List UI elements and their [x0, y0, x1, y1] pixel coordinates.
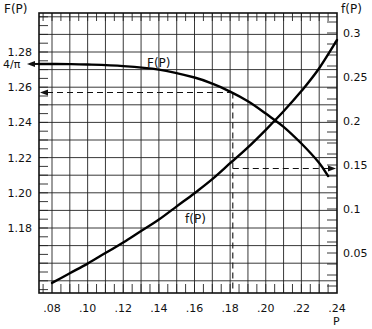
y-right-tick-label: 0.05 — [343, 247, 368, 260]
y-left-tick-label: 1.24 — [8, 116, 33, 129]
arrow-left-icon — [27, 61, 35, 67]
x-tick-label: .20 — [257, 302, 275, 315]
arrow-left-icon — [40, 89, 48, 95]
y-right-tick-label: 0.1 — [343, 203, 361, 216]
x-tick-label: .10 — [79, 302, 97, 315]
x-tick-label: .12 — [115, 302, 133, 315]
labels: .08.10.12.14.16.18.20.22.241.281.261.241… — [3, 27, 368, 315]
arrow-right-icon — [328, 166, 336, 172]
y-left-tick-label: 1.22 — [8, 152, 33, 165]
curve-F-of-P — [39, 64, 328, 176]
x-tick-label: .24 — [328, 302, 346, 315]
series — [39, 40, 337, 283]
x-tick-label: .08 — [43, 302, 61, 315]
y-left-tick-label: 1.20 — [8, 187, 33, 200]
plot-frame — [39, 13, 337, 293]
y-left-axis-label: F(P) — [4, 2, 28, 16]
x-tick-label: .16 — [186, 302, 204, 315]
annotations — [27, 61, 336, 293]
y-right-tick-label: 0.3 — [343, 27, 361, 40]
y-left-tick-label: 1.18 — [8, 222, 33, 235]
four-over-pi-label: 4/π — [3, 58, 21, 71]
y-right-tick-label: 0.2 — [343, 115, 361, 128]
curve-label-f: f(P) — [185, 212, 206, 226]
chart: .08.10.12.14.16.18.20.22.241.281.261.241… — [0, 0, 372, 329]
x-tick-label: .14 — [150, 302, 168, 315]
minor-ticks — [39, 13, 337, 293]
curve-label-F: F(P) — [147, 56, 171, 70]
y-right-tick-label: 0.15 — [343, 159, 368, 172]
x-tick-label: .22 — [293, 302, 311, 315]
y-right-axis-label: f(P) — [341, 2, 362, 16]
grid-lines — [39, 13, 337, 293]
y-right-tick-label: 0.25 — [343, 71, 368, 84]
x-axis-label: P — [333, 315, 340, 328]
x-tick-label: .18 — [221, 302, 239, 315]
y-left-tick-label: 1.26 — [8, 81, 33, 94]
